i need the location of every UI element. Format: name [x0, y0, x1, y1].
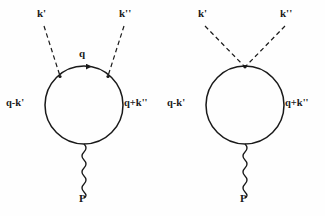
- label-q-plus-k-double-prime-left: q+k'': [124, 98, 148, 109]
- diagram-right-group: [205, 26, 285, 198]
- label-P-left: P: [79, 193, 86, 204]
- label-k-double-prime-right: k'': [280, 8, 292, 19]
- label-k-prime-left: k': [37, 8, 46, 19]
- dashed-line-k-double-prime-left: [108, 26, 124, 76]
- dashed-line-k-prime-left: [44, 26, 60, 76]
- label-k-prime-right: k': [198, 8, 207, 19]
- contact-vertex-dot-right: [243, 65, 246, 68]
- boson-wavy-line-left: [82, 144, 86, 198]
- boson-wavy-line-right: [243, 144, 247, 198]
- label-q-plus-k-double-prime-right: q+k'': [285, 98, 309, 109]
- label-q-minus-k-prime-left: q-k': [6, 98, 24, 109]
- label-P-right: P: [240, 193, 247, 204]
- label-q-left: q: [79, 48, 85, 59]
- vertex-dot-k-double-prime-left: [106, 75, 109, 78]
- fermion-loop-circle-left: [45, 66, 123, 144]
- label-q-minus-k-prime-right: q-k': [167, 98, 185, 109]
- diagram-canvas: [0, 0, 325, 216]
- fermion-loop-circle-right: [206, 66, 284, 144]
- label-k-double-prime-left: k'': [119, 8, 131, 19]
- vertex-dot-k-prime-left: [58, 75, 61, 78]
- dashed-line-k-double-prime-right: [245, 26, 285, 67]
- feynman-diagram-figure: k' k'' q q-k' q+k'' P k' k'' q-k' q+k'' …: [0, 0, 325, 216]
- dashed-line-k-prime-right: [205, 26, 245, 67]
